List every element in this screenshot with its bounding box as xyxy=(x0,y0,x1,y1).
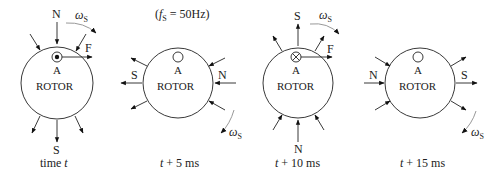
panel-t-plus-15ms: A ROTOR N S t + 15 ms ωS xyxy=(364,48,484,170)
rotor-label: ROTOR xyxy=(157,80,195,92)
rotation-arrow xyxy=(310,24,339,34)
conductor-a xyxy=(413,52,423,62)
field-arrow xyxy=(30,34,40,50)
field-arrow xyxy=(209,101,225,110)
rotation-arrow xyxy=(66,23,96,33)
pole-label-north: N xyxy=(218,68,227,82)
field-arrow xyxy=(273,115,282,130)
pole-label-north: N xyxy=(294,142,303,156)
conductor-a xyxy=(173,52,183,62)
field-arrow xyxy=(131,58,147,66)
rotor-label: ROTOR xyxy=(399,80,437,92)
frequency-label: (fS = 50Hz) xyxy=(155,7,210,23)
pole-label-south: S xyxy=(294,9,301,23)
pole-label-north: N xyxy=(52,7,61,21)
caption: time t xyxy=(40,156,68,170)
rotor-field-diagram: (fS = 50Hz) F N A ROTOR S time t ωS xyxy=(0,0,496,174)
conductor-label: A xyxy=(53,64,61,76)
field-arrow xyxy=(75,116,83,133)
pole-label-south: S xyxy=(53,143,60,157)
pole-label-north: N xyxy=(369,68,378,82)
rotor-label: ROTOR xyxy=(277,80,315,92)
field-arrow xyxy=(451,101,466,110)
conductor-label: A xyxy=(292,64,300,76)
force-label: F xyxy=(327,42,334,56)
field-arrow xyxy=(375,101,390,110)
field-arrow xyxy=(315,115,324,130)
force-label: F xyxy=(85,41,92,55)
conductor-label: A xyxy=(414,64,422,76)
field-arrow xyxy=(273,36,282,51)
rotor-label: ROTOR xyxy=(36,80,74,92)
field-arrow xyxy=(451,57,466,66)
caption: t + 5 ms xyxy=(160,156,199,170)
omega-s-label: ωS xyxy=(319,8,332,24)
pole-label-south: S xyxy=(131,68,138,82)
omega-s-label: ωS xyxy=(75,8,88,24)
current-in-cross-icon xyxy=(293,54,300,61)
field-arrow xyxy=(315,36,324,51)
caption: t + 10 ms xyxy=(275,156,320,170)
conductor-label: A xyxy=(174,64,182,76)
field-arrow xyxy=(131,101,147,109)
caption: t + 15 ms xyxy=(400,156,445,170)
field-arrow xyxy=(32,116,40,133)
omega-s-label: ωS xyxy=(471,125,484,141)
panel-t-plus-10ms: F S A ROTOR N t + 10 ms ωS xyxy=(263,8,339,170)
field-arrow xyxy=(375,57,390,66)
panel-t-plus-5ms: A ROTOR S N t + 5 ms ωS xyxy=(121,48,242,170)
field-arrow xyxy=(209,58,225,66)
omega-s-label: ωS xyxy=(229,125,242,141)
panel-time-t: F N A ROTOR S time t ωS xyxy=(21,7,96,170)
current-out-dot-icon xyxy=(55,55,59,59)
pole-label-south: S xyxy=(461,68,468,82)
